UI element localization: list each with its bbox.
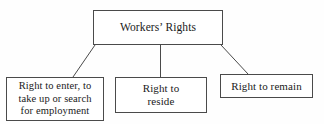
node-right-to-reside-label: Right to reside: [143, 82, 180, 108]
node-workers-rights-label: Workers’ Rights: [120, 21, 196, 35]
diagram-canvas: Workers’ Rights Right to enter, to take …: [0, 0, 324, 124]
node-workers-rights: Workers’ Rights: [93, 10, 223, 45]
connector-root-to-remain: [221, 45, 248, 74]
node-right-to-remain-label: Right to remain: [231, 80, 302, 93]
node-right-to-enter-label: Right to enter, to take up or search for…: [18, 80, 91, 117]
node-right-to-enter: Right to enter, to take up or search for…: [6, 77, 104, 121]
node-right-to-reside: Right to reside: [115, 77, 207, 113]
node-right-to-remain: Right to remain: [220, 74, 313, 98]
connector-root-to-enter: [73, 45, 95, 77]
